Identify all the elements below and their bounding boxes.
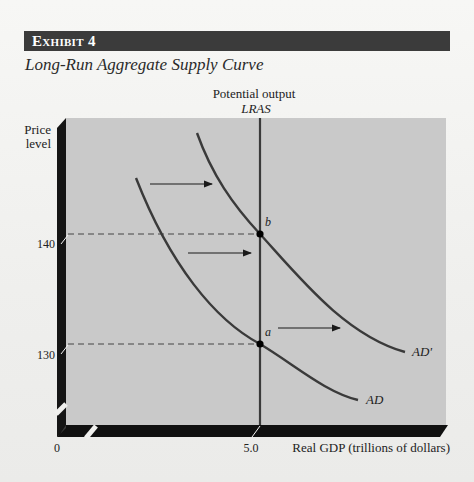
x-axis-frame <box>57 425 448 437</box>
point-b-marker <box>256 230 263 237</box>
y-tick-130: 130 <box>37 348 55 362</box>
x-tick-0: 0 <box>54 441 60 455</box>
y-tick-140: 140 <box>37 237 55 251</box>
y-axis-label-line2: level <box>26 136 52 151</box>
x-tick-5: 5.0 <box>244 441 259 455</box>
lras-top-label: Potential output <box>213 86 296 101</box>
ad-prime-label: AD' <box>411 344 432 359</box>
chart: Potential output LRAS Price level 140 13… <box>0 0 474 482</box>
y-axis-frame <box>57 118 66 437</box>
y-axis-label-line1: Price <box>24 122 51 137</box>
point-a-label: a <box>265 325 271 339</box>
point-b-label: b <box>265 215 271 229</box>
point-a-marker <box>256 340 263 347</box>
ad-label: AD <box>365 392 384 407</box>
plot-area <box>66 118 446 425</box>
x-axis-label: Real GDP (trillions of dollars) <box>292 440 450 455</box>
lras-name-label: LRAS <box>240 101 271 116</box>
